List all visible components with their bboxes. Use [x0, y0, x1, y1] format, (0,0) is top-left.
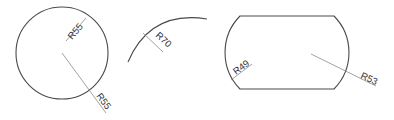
drawing-canvas: R55 R55 R70 R49 R53 [0, 0, 394, 120]
circle-figure: R55 R55 [16, 7, 114, 113]
obround-right-dimension-label: R53 [359, 70, 379, 87]
circle-outer-dimension-label: R55 [94, 91, 113, 112]
obround-outline [225, 16, 349, 89]
obround-left-dimension-label: R49 [231, 57, 252, 76]
obround-figure: R49 R53 [225, 16, 380, 89]
arc-figure: R70 [128, 18, 207, 62]
